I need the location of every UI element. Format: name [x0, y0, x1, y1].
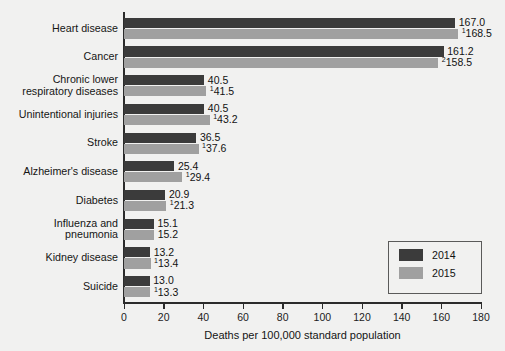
- bar-value-label: 15.2: [158, 229, 178, 239]
- bar-2015: [124, 144, 199, 154]
- bar-value-label: 2158.5: [442, 57, 472, 67]
- bar-2015: [124, 258, 151, 268]
- bar-value-label: 129.4: [186, 172, 210, 182]
- bar-2015: [124, 201, 166, 211]
- x-tick: [322, 303, 323, 309]
- bar-2014: [124, 190, 165, 200]
- x-tick-label: 180: [472, 311, 490, 323]
- x-tick: [282, 303, 283, 309]
- bar-value-label: 137.6: [202, 143, 226, 153]
- y-axis-label: Diabetes: [0, 195, 118, 207]
- bar-chart: Heart diseaseCancerChronic lowerrespirat…: [0, 0, 505, 351]
- x-tick: [481, 303, 482, 309]
- bar-2014: [124, 75, 204, 85]
- x-tick: [203, 303, 204, 309]
- bar-2014: [124, 104, 204, 114]
- y-axis-label: Unintentional injuries: [0, 109, 118, 121]
- y-axis-label: Suicide: [0, 281, 118, 293]
- y-axis-category-labels: Heart diseaseCancerChronic lowerrespirat…: [0, 14, 118, 301]
- x-tick-label: 60: [237, 311, 249, 323]
- x-tick: [243, 303, 244, 309]
- x-tick: [401, 303, 402, 309]
- bar-value-label: 113.3: [154, 287, 178, 297]
- legend-label-2014: 2014: [432, 249, 456, 261]
- bar-2014: [124, 18, 455, 28]
- x-tick: [163, 303, 164, 309]
- x-tick-label: 120: [353, 311, 371, 323]
- x-tick-label: 80: [277, 311, 289, 323]
- bar-2015: [124, 29, 458, 39]
- y-axis-label: Influenza andpneumonia: [0, 218, 118, 241]
- bar-2015: [124, 58, 438, 68]
- bar-2015: [124, 115, 210, 125]
- y-axis-label: Stroke: [0, 137, 118, 149]
- bar-value-label: 113.4: [154, 258, 178, 268]
- x-tick-label: 140: [393, 311, 411, 323]
- x-tick-label: 40: [197, 311, 209, 323]
- bar-value-label: 161.2: [447, 46, 473, 56]
- bar-2015: [124, 230, 154, 240]
- bar-2014: [124, 219, 154, 229]
- bar-value-label: 143.2: [213, 114, 237, 124]
- legend: 2014 2015: [388, 241, 482, 294]
- bar-value-label: 1168.5: [462, 28, 492, 38]
- y-axis-label: Heart disease: [0, 23, 118, 35]
- legend-item-2015: 2015: [399, 267, 481, 279]
- bar-2014: [124, 133, 196, 143]
- bar-2014: [124, 161, 174, 171]
- bar-2015: [124, 287, 150, 297]
- x-axis-line: [123, 302, 482, 304]
- x-tick-label: 160: [433, 311, 451, 323]
- x-tick: [441, 303, 442, 309]
- legend-swatch-2014: [399, 249, 423, 261]
- y-axis-label: Chronic lowerrespiratory diseases: [0, 74, 118, 97]
- legend-item-2014: 2014: [399, 249, 481, 261]
- bar-2015: [124, 86, 206, 96]
- bar-value-label: 40.5: [208, 103, 228, 113]
- y-axis-label: Kidney disease: [0, 252, 118, 264]
- y-axis-label: Cancer: [0, 51, 118, 63]
- x-tick-label: 100: [314, 311, 332, 323]
- x-tick-label: 0: [121, 311, 127, 323]
- x-tick: [362, 303, 363, 309]
- bar-value-label: 141.5: [210, 86, 234, 96]
- x-tick-label: 20: [158, 311, 170, 323]
- x-tick: [124, 303, 125, 309]
- bar-2014: [124, 247, 150, 257]
- bar-2015: [124, 172, 182, 182]
- x-axis-title: Deaths per 100,000 standard population: [124, 329, 481, 341]
- bar-2014: [124, 276, 150, 286]
- legend-swatch-2015: [399, 267, 423, 279]
- bar-value-label: 121.3: [170, 200, 194, 210]
- y-axis-label: Alzheimer's disease: [0, 166, 118, 178]
- bar-2014: [124, 46, 444, 56]
- legend-label-2015: 2015: [432, 267, 456, 279]
- bar-value-label: 15.1: [157, 218, 177, 228]
